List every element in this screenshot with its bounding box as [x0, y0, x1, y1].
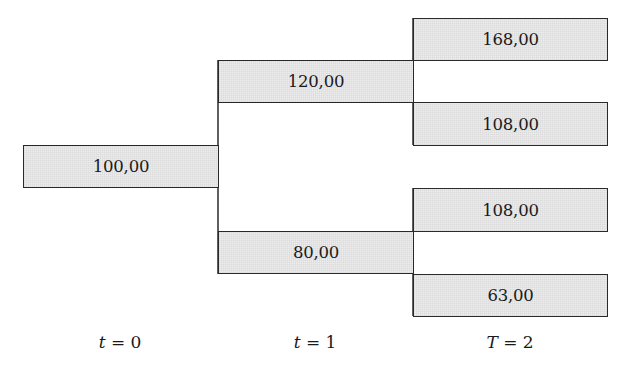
time-label-t0: t = 0 [60, 332, 180, 352]
time-label-t2: T = 2 [450, 332, 570, 352]
node-value: 108,00 [482, 201, 539, 220]
node-value: 100,00 [93, 157, 150, 176]
node-t1-down: 80,00 [218, 231, 414, 274]
node-t0: 100,00 [23, 145, 219, 188]
node-value: 80,00 [293, 243, 339, 262]
node-t2-updown: 108,00 [413, 102, 608, 146]
time-equation: = 2 [498, 332, 534, 352]
time-variable: T [486, 332, 497, 352]
node-value: 108,00 [482, 115, 539, 134]
node-t2-downup: 108,00 [413, 188, 608, 232]
time-equation: = 0 [105, 332, 141, 352]
time-label-t1: t = 1 [255, 332, 375, 352]
time-equation: = 1 [300, 332, 336, 352]
node-value: 63,00 [487, 286, 533, 305]
node-t1-up: 120,00 [218, 60, 414, 103]
node-value: 120,00 [288, 72, 345, 91]
node-t2-downdown: 63,00 [413, 274, 608, 317]
node-value: 168,00 [482, 30, 539, 49]
node-t2-upup: 168,00 [413, 18, 608, 61]
